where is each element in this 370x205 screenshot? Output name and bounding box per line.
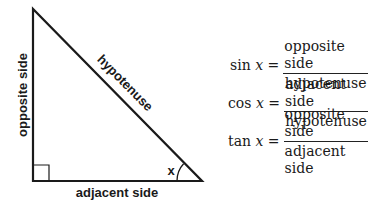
tangent-formula: tan x = opposite side adjacent side xyxy=(228,122,368,160)
numerator: opposite side xyxy=(284,106,368,142)
trig-diagram: opposite side hypotenuse adjacent side x… xyxy=(0,0,370,205)
hypotenuse-label: hypotenuse xyxy=(94,52,156,115)
right-angle-marker xyxy=(33,165,49,181)
opposite-side-label: opposite side xyxy=(15,53,30,137)
adjacent-side-label: adjacent side xyxy=(76,185,158,200)
equals-sign: = xyxy=(268,95,280,111)
equals-sign: = xyxy=(268,57,280,73)
function-name: tan xyxy=(228,133,251,149)
variable: x xyxy=(256,95,264,111)
sine-lhs: sin x = xyxy=(228,57,283,73)
variable: x xyxy=(255,57,263,73)
numerator: opposite side xyxy=(283,38,368,74)
angle-arc xyxy=(177,164,184,181)
variable: x xyxy=(255,133,263,149)
tangent-lhs: tan x = xyxy=(228,133,284,149)
trig-formulas: sin x = opposite side hypotenuse cos x =… xyxy=(228,46,368,160)
function-name: sin xyxy=(230,57,251,73)
angle-x-label: x xyxy=(167,163,175,178)
right-triangle xyxy=(33,9,202,181)
cosine-lhs: cos x = xyxy=(228,95,284,111)
equals-sign: = xyxy=(268,133,280,149)
denominator: adjacent side xyxy=(284,142,368,177)
tangent-fraction: opposite side adjacent side xyxy=(284,106,368,177)
function-name: cos xyxy=(228,95,251,111)
